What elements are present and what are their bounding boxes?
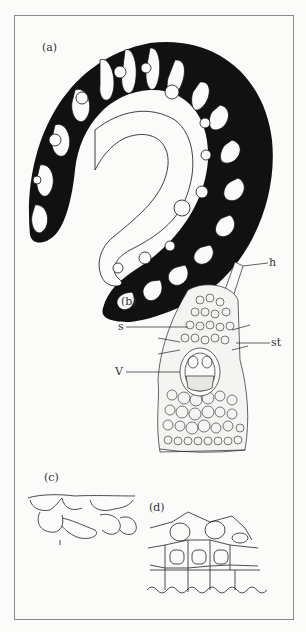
panel-label-a: (a) (42, 42, 57, 53)
annotation-s: s (118, 321, 124, 332)
panel-d-drawing (147, 512, 267, 593)
annotation-h: h (269, 257, 276, 268)
annotation-v: V (115, 366, 123, 377)
botanical-illustration (0, 0, 306, 632)
annotation-st: st (271, 337, 281, 348)
panel-label-b: (b) (121, 296, 137, 307)
panel-label-d: (d) (149, 502, 165, 513)
panel-c-drawing (28, 495, 136, 545)
panel-label-c: (c) (44, 472, 59, 483)
